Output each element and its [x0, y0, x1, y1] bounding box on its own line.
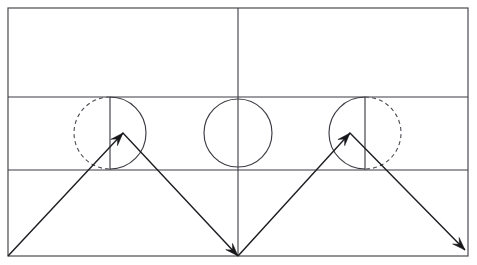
diagram-canvas	[0, 0, 477, 265]
trajectory-diagram	[0, 0, 477, 265]
